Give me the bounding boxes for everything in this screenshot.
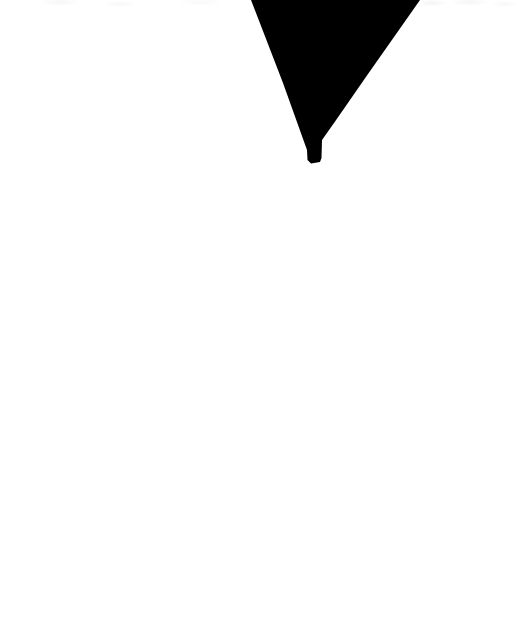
- page-body-text: [0, 175, 517, 635]
- scanned-page: [0, 0, 517, 638]
- v-wedge-glyph-icon: [251, 0, 420, 164]
